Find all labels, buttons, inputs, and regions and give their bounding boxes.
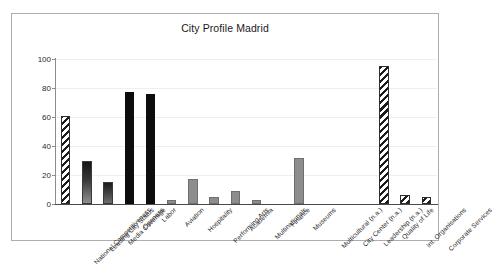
y-tick-mark bbox=[52, 146, 55, 147]
bar bbox=[209, 197, 219, 204]
chart-title: City Profile Madrid bbox=[12, 22, 438, 34]
bar bbox=[61, 116, 71, 204]
bar bbox=[125, 92, 135, 204]
bar bbox=[146, 94, 156, 204]
y-tick-label: 0 bbox=[25, 200, 51, 209]
y-tick-label: 80 bbox=[25, 84, 51, 93]
gridline bbox=[55, 59, 437, 60]
y-tick-mark bbox=[52, 88, 55, 89]
y-tick-label: 60 bbox=[25, 113, 51, 122]
x-tick-label: Aviation bbox=[183, 206, 205, 228]
bar bbox=[422, 197, 432, 204]
y-axis-line bbox=[55, 58, 56, 205]
y-tick-label: 40 bbox=[25, 142, 51, 151]
y-tick-mark bbox=[52, 117, 55, 118]
plot-area bbox=[55, 59, 437, 204]
y-tick-label: 100 bbox=[25, 55, 51, 64]
bar bbox=[231, 191, 241, 204]
bar bbox=[103, 182, 113, 204]
chart-frame: City Profile Madrid 020406080100 Nationa… bbox=[11, 13, 439, 241]
bar bbox=[400, 195, 410, 204]
x-axis-tick-labels: National CompetitivenessLeading City Sta… bbox=[55, 206, 438, 264]
y-tick-mark bbox=[52, 59, 55, 60]
x-tick-label: Museums bbox=[312, 206, 338, 232]
bar bbox=[82, 161, 92, 205]
y-tick-mark bbox=[52, 175, 55, 176]
bar bbox=[188, 179, 198, 204]
x-tick-label: Hospitality bbox=[206, 206, 233, 233]
bar bbox=[294, 158, 304, 204]
y-axis-tick-labels: 020406080100 bbox=[23, 59, 51, 204]
bar bbox=[379, 66, 389, 204]
x-axis-line bbox=[55, 204, 438, 205]
y-tick-label: 20 bbox=[25, 171, 51, 180]
y-tick-mark bbox=[52, 204, 55, 205]
